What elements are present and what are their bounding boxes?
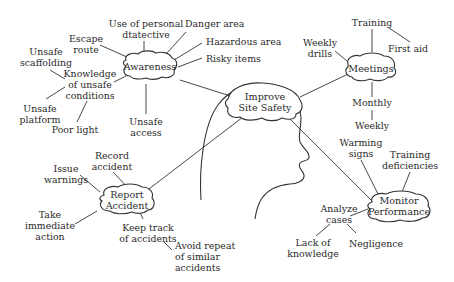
edge-knowledge-platform (46, 87, 65, 99)
edge-report-action (75, 211, 97, 224)
label-monthly: Monthly (352, 97, 391, 108)
label-danger-area: Danger area (185, 18, 244, 29)
node-report-accident: Report Accident (106, 189, 149, 211)
label-keep-track-accidents: Keep track of accidents (119, 222, 176, 244)
mind-map-diagram: Awareness Improve Site Safety Meetings R… (0, 0, 454, 282)
edge-monitor-warming (361, 160, 378, 194)
label-unsafe-platform: Unsafe platform (20, 103, 61, 125)
node-awareness: Awareness (124, 61, 176, 72)
label-unsafe-scaffolding: Unsafe scaffolding (20, 46, 72, 68)
label-take-immediate-action: Take immediate action (25, 209, 75, 242)
node-monitor-performance: Monitor Performance (368, 195, 430, 217)
edge-center-meetings (300, 74, 348, 97)
label-personal-detective: Use of personal dtatective (109, 18, 183, 40)
label-escape-route: Escape route (69, 33, 103, 55)
label-record-accident: Record accident (92, 150, 132, 172)
label-knowledge-unsafe-conditions: Knowledge of unsafe conditions (64, 68, 117, 101)
node-center-improve-site-safety: Improve Site Safety (238, 91, 291, 113)
label-warming-signs: Warming signs (340, 137, 383, 159)
label-issue-warnings: Issue warnings (44, 163, 88, 185)
edge-training-firstaid (389, 28, 410, 42)
label-analyze-cases: Analyze cases (320, 203, 357, 225)
edge-knowledge-poorlight (77, 101, 87, 122)
label-weekly-drills: Weekly drills (303, 37, 337, 59)
label-poor-light: Poor light (52, 124, 98, 135)
label-first-aid: First aid (388, 43, 428, 54)
node-meetings: Meetings (348, 63, 393, 74)
label-hazardous-area: Hazardous area (206, 36, 281, 47)
label-risky-items: Risky items (206, 53, 261, 64)
label-weekly: Weekly (355, 120, 389, 131)
edge-awareness-escape (100, 45, 127, 57)
label-negligence: Negligence (349, 238, 403, 249)
edge-analyze-lack (316, 224, 330, 236)
label-lack-of-knowledge: Lack of knowledge (287, 237, 339, 259)
label-training-deficiencies: Training deficiencies (382, 149, 438, 171)
label-avoid-repeat: Avoid repeat of similar accidents (175, 240, 235, 273)
edge-awareness-risky (178, 58, 202, 67)
edge-analyze-negligence (347, 224, 356, 233)
label-unsafe-access: Unsafe access (129, 116, 162, 138)
label-training: Training (352, 17, 392, 28)
edge-awareness-hazardous (174, 43, 202, 60)
edge-monitor-deficiencies (402, 172, 410, 192)
